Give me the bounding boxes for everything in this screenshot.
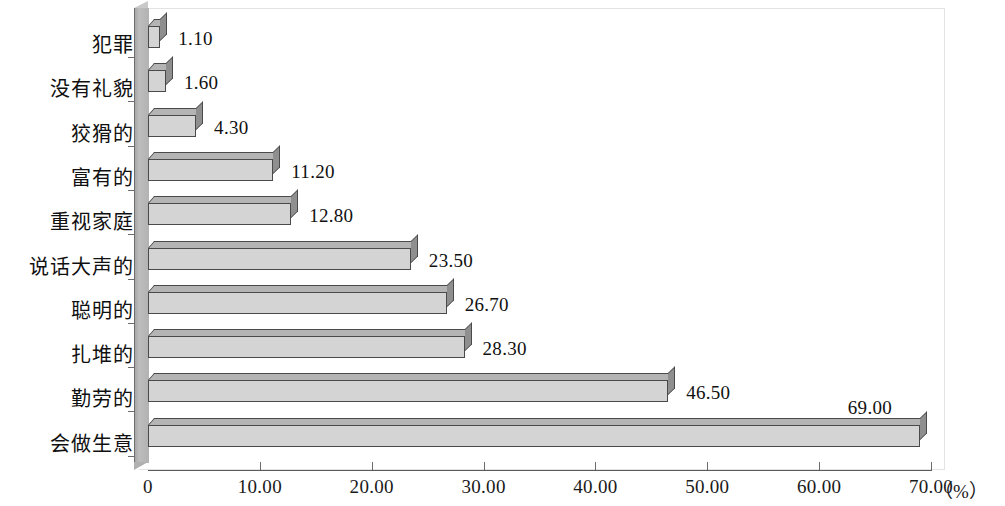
bar-front-face: [148, 380, 668, 402]
bar-value-label: 69.00: [848, 397, 892, 419]
bar: [148, 26, 160, 48]
bar-front-face: [148, 70, 166, 92]
bar-value-label: 12.80: [309, 205, 353, 227]
x-axis-tick-label: 10.00: [215, 476, 305, 498]
category-label: 聪明的: [71, 295, 134, 324]
bar-value-label: 11.20: [291, 161, 335, 183]
bar: [148, 159, 273, 181]
x-axis-tick: [484, 462, 485, 470]
bar-top-face: [148, 152, 280, 159]
category-axis-tick: [128, 101, 135, 102]
bar-top-face: [148, 373, 674, 380]
bar-top-face: [148, 196, 297, 203]
category-axis-tick: [128, 57, 135, 58]
bar: [148, 203, 291, 225]
bar: [148, 425, 920, 447]
bar-top-face: [148, 329, 471, 336]
x-axis-tick: [931, 462, 932, 470]
category-axis-wall: [134, 8, 149, 463]
axis-wall-top-bevel: [134, 1, 148, 8]
bar-value-label: 28.30: [483, 338, 527, 360]
bar: [148, 336, 465, 358]
x-axis-tick: [819, 462, 820, 470]
bar-front-face: [148, 336, 465, 358]
bar-value-label: 1.60: [184, 72, 218, 94]
category-axis-tick: [128, 234, 135, 235]
bar-value-label: 1.10: [178, 28, 212, 50]
bar-top-face: [148, 418, 926, 425]
x-axis-unit-label: （%）: [934, 476, 988, 503]
category-axis-tick: [128, 146, 135, 147]
bar-front-face: [148, 159, 273, 181]
category-label: 说话大声的: [29, 251, 134, 280]
bar-top-face: [148, 285, 453, 292]
category-axis-tick: [128, 190, 135, 191]
bar: [148, 70, 166, 92]
bar-front-face: [148, 203, 291, 225]
x-axis-line: [148, 470, 932, 471]
x-axis-tick-label: 40.00: [550, 476, 640, 498]
category-label: 重视家庭: [50, 206, 134, 235]
category-axis-tick: [128, 323, 135, 324]
category-axis-tick: [128, 411, 135, 412]
bar: [148, 292, 447, 314]
bar-front-face: [148, 26, 160, 48]
category-label: 富有的: [71, 162, 134, 191]
bar-chart: 1.101.604.3011.2012.8023.5026.7028.3046.…: [0, 0, 1005, 506]
bar-front-face: [148, 425, 920, 447]
x-axis-tick: [707, 462, 708, 470]
bar-value-label: 46.50: [686, 382, 730, 404]
bar-top-face: [148, 241, 417, 248]
category-axis-tick: [128, 367, 135, 368]
x-axis-tick-label: 50.00: [662, 476, 752, 498]
category-axis-tick: [128, 279, 135, 280]
x-axis-tick-label: 0: [103, 476, 193, 498]
bar: [148, 248, 411, 270]
bar-front-face: [148, 292, 447, 314]
category-label: 狡猾的: [71, 118, 134, 147]
x-axis-tick-label: 60.00: [774, 476, 864, 498]
x-axis-tick-label: 30.00: [439, 476, 529, 498]
category-label: 犯罪: [92, 29, 134, 58]
bar-top-face: [148, 108, 202, 115]
x-axis-tick-label: 20.00: [327, 476, 417, 498]
axis-wall-foot-bevel: [134, 462, 148, 470]
bar-value-label: 26.70: [465, 294, 509, 316]
category-label: 会做生意: [50, 428, 134, 457]
category-label: 扎堆的: [71, 339, 134, 368]
category-label: 勤劳的: [71, 383, 134, 412]
x-axis-tick: [260, 462, 261, 470]
x-axis-tick: [372, 462, 373, 470]
category-label: 没有礼貌: [50, 73, 134, 102]
bar-value-label: 23.50: [429, 250, 473, 272]
bar: [148, 115, 196, 137]
bar: [148, 380, 668, 402]
bar-value-label: 4.30: [214, 117, 248, 139]
bar-front-face: [148, 115, 196, 137]
x-axis-tick: [595, 462, 596, 470]
category-axis-tick: [128, 456, 135, 457]
bar-front-face: [148, 248, 411, 270]
